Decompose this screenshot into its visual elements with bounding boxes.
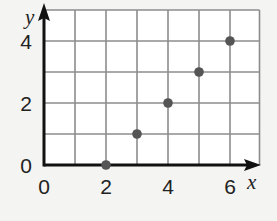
x-tick-label: 4 bbox=[162, 175, 174, 198]
y-tick-label: 4 bbox=[20, 30, 32, 53]
data-point bbox=[194, 67, 204, 77]
data-point bbox=[163, 98, 173, 108]
data-point bbox=[101, 160, 111, 170]
plot-area bbox=[44, 10, 260, 165]
scatter-chart: 0246024 x y bbox=[0, 0, 277, 221]
data-point bbox=[225, 36, 235, 46]
x-tick-label: 2 bbox=[100, 175, 112, 198]
x-axis-label: x bbox=[246, 170, 257, 194]
y-tick-label: 0 bbox=[20, 154, 32, 177]
data-point bbox=[132, 129, 142, 139]
y-tick-label: 2 bbox=[20, 92, 32, 115]
y-axis-label: y bbox=[23, 5, 35, 29]
x-tick-label: 0 bbox=[38, 175, 50, 198]
x-tick-label: 6 bbox=[224, 175, 236, 198]
